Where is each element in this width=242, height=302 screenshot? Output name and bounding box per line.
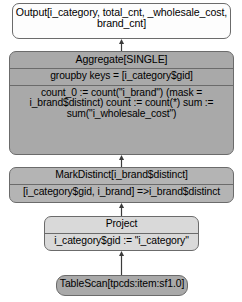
markdistinct-body: [i_category$gid, i_brand] =>i_brand$dist… [10, 184, 233, 201]
markdistinct-title: MarkDistinct[i_brand$distinct] [10, 168, 233, 184]
aggregate-title: Aggregate[SINGLE] [10, 52, 233, 68]
plan-node-tablescan[interactable]: TableScan[tpcds:item:sf1.0] [56, 275, 188, 296]
project-title: Project [45, 217, 198, 233]
project-body: i_category$gid := "i_category" [45, 233, 198, 250]
plan-node-output[interactable]: Output[i_category, total_cnt, _wholesale… [12, 3, 231, 39]
query-plan-diagram: Output[i_category, total_cnt, _wholesale… [0, 0, 242, 302]
aggregate-groupby-keys: groupby keys = [i_category$gid] [10, 68, 233, 85]
plan-node-markdistinct[interactable]: MarkDistinct[i_brand$distinct] [i_catego… [9, 167, 234, 203]
aggregate-aggregations: count_0 := count("i_brand") (mask = i_br… [10, 85, 233, 123]
tablescan-label: TableScan[tpcds:item:sf1.0] [57, 276, 187, 292]
plan-node-aggregate[interactable]: Aggregate[SINGLE] groupby keys = [i_cate… [9, 51, 234, 155]
output-label: Output[i_category, total_cnt, _wholesale… [13, 4, 230, 31]
plan-node-project[interactable]: Project i_category$gid := "i_category" [44, 216, 199, 251]
